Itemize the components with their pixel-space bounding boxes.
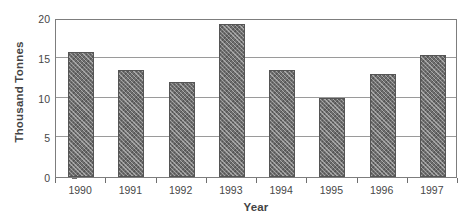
gridline (56, 97, 456, 98)
bar-1996 (370, 74, 396, 177)
bar-1997 (420, 55, 446, 177)
bar-1995 (319, 98, 345, 177)
y-tick-label: 10 (28, 94, 50, 104)
x-tick-label-1991: 1991 (105, 184, 155, 196)
x-tick-label-1993: 1993 (206, 184, 256, 196)
x-tick-mark (357, 178, 358, 183)
x-tick-mark (256, 178, 257, 183)
bar-1994 (269, 70, 295, 177)
x-tick-label-1995: 1995 (306, 184, 356, 196)
y-tick-label: 20 (28, 14, 50, 24)
y-tick-label: 15 (28, 54, 50, 64)
y-tick-label: 5 (28, 133, 50, 143)
x-tick-label-1996: 1996 (357, 184, 407, 196)
x-axis-ticks: 19901991199219931994199519961997 (55, 178, 457, 202)
gridline (56, 136, 456, 137)
x-tick-mark (105, 178, 106, 183)
x-tick-label-1992: 1992 (156, 184, 206, 196)
x-tick-mark (306, 178, 307, 183)
bar-1990 (68, 52, 94, 177)
x-tick-mark (206, 178, 207, 183)
plot-area (55, 19, 457, 178)
x-tick-label-1997: 1997 (407, 184, 457, 196)
x-tick-label-1994: 1994 (256, 184, 306, 196)
y-tick-label: 0 (28, 173, 50, 183)
gridline (56, 57, 456, 58)
x-tick-mark (407, 178, 408, 183)
bar-1993 (219, 24, 245, 177)
y-axis-ticks: 05101520 (22, 0, 50, 224)
x-tick-mark (156, 178, 157, 183)
x-tick-mark (457, 178, 458, 183)
bar-chart: Thousand Tonnes 05101520 199019911992199… (0, 0, 476, 224)
bar-1991 (118, 70, 144, 177)
x-tick-label-1990: 1990 (55, 184, 105, 196)
bar-1992 (169, 82, 195, 177)
x-axis-title: Year (55, 201, 457, 213)
x-tick-mark (55, 178, 56, 183)
